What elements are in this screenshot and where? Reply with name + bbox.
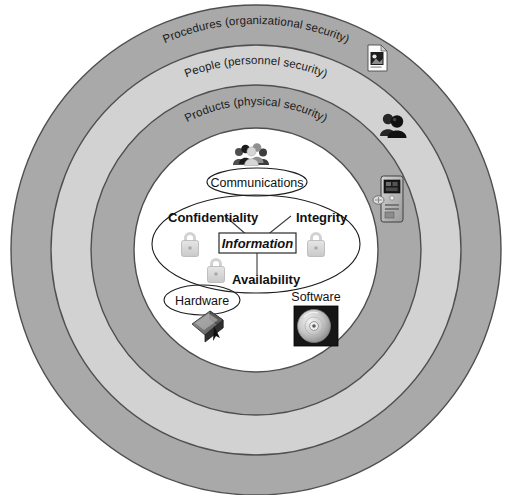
security-rings-diagram: Procedures (organizational security) Peo…: [0, 0, 511, 495]
compact-disc-icon: [294, 306, 338, 346]
confidentiality-label: Confidentiality: [168, 210, 259, 225]
information-label: Information: [222, 236, 294, 251]
software-label: Software: [291, 290, 340, 304]
integrity-label: Integrity: [296, 210, 348, 225]
diagram-canvas: Procedures (organizational security) Peo…: [0, 0, 511, 495]
hardware-label: Hardware: [175, 294, 229, 308]
availability-label: Availability: [232, 272, 301, 287]
communications-label: Communications: [210, 176, 303, 190]
document-icon: [368, 45, 387, 71]
